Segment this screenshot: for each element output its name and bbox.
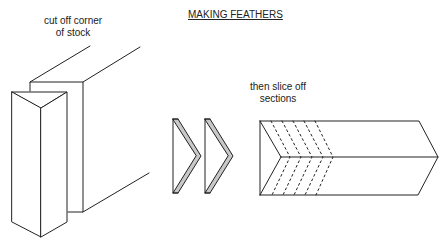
diagram-canvas: MAKING FEATHERS cut off corner of stock … <box>0 0 444 243</box>
diagram-drawing <box>0 0 444 243</box>
feather-slice-1 <box>173 119 201 193</box>
triangular-stock <box>260 121 438 195</box>
corner-prism <box>12 92 67 237</box>
feather-slice-2 <box>205 119 233 193</box>
